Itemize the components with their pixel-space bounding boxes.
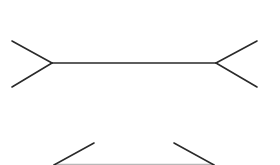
- muller-lyer-diagram: [0, 0, 280, 165]
- bottom-fin-line: [54, 143, 94, 165]
- top-fin-line: [12, 41, 52, 63]
- bottom-arrow-figure: [54, 143, 214, 165]
- top-fin-line: [12, 63, 52, 87]
- top-arrow-figure: [12, 41, 257, 87]
- top-fin-line: [216, 41, 257, 63]
- top-fin-line: [216, 63, 257, 87]
- bottom-fin-line: [174, 143, 214, 165]
